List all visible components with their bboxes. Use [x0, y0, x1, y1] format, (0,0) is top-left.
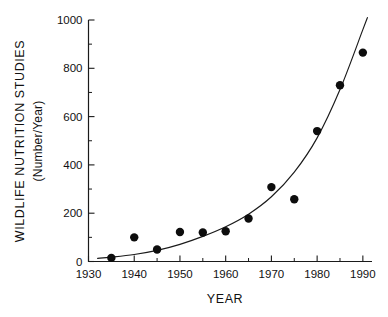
x-tick-label: 1940 [121, 268, 147, 280]
y-tick-label: 800 [63, 62, 82, 74]
y-tick-label: 1000 [57, 14, 83, 26]
fitted-trend-curve [98, 18, 368, 259]
x-tick-label: 1990 [350, 268, 376, 280]
data-point [336, 81, 344, 89]
data-point [244, 214, 252, 222]
chart-plot-area: 02004006008001000 1930194019501960197019… [0, 0, 388, 317]
x-tick-label: 1950 [167, 268, 193, 280]
y-tick-label: 200 [63, 207, 82, 219]
data-point [153, 245, 161, 253]
y-axis-title: WILDLIFE NUTRITION STUDIES [13, 40, 27, 242]
data-point [107, 254, 115, 262]
x-tick-label: 1960 [213, 268, 239, 280]
x-axis-title: YEAR [207, 292, 243, 306]
data-point [359, 48, 367, 56]
wildlife-nutrition-studies-chart: 02004006008001000 1930194019501960197019… [0, 0, 388, 317]
y-tick-label: 0 [76, 256, 82, 268]
data-point-series [107, 48, 367, 262]
x-tick-label: 1930 [76, 268, 102, 280]
y-axis-subtitle: (Number/Year) [31, 101, 45, 182]
data-point [176, 228, 184, 236]
y-tick-label: 600 [63, 111, 82, 123]
x-axis-major-ticks [89, 256, 363, 262]
y-tick-label: 400 [63, 159, 82, 171]
data-point [290, 195, 298, 203]
data-point [267, 183, 275, 191]
x-tick-label: 1980 [304, 268, 330, 280]
x-tick-label: 1970 [259, 268, 285, 280]
data-point [130, 233, 138, 241]
data-point [221, 227, 229, 235]
x-axis-tick-labels: 1930194019501960197019801990 [76, 268, 376, 280]
axes-group [89, 20, 373, 262]
data-point [313, 127, 321, 135]
y-axis-tick-labels: 02004006008001000 [57, 14, 83, 268]
data-point [199, 228, 207, 236]
